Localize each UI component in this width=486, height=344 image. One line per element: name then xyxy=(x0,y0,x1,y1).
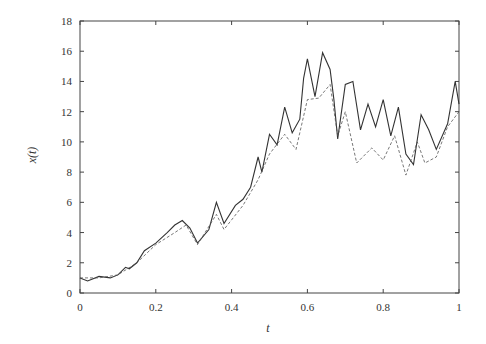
y-tick-label: 12 xyxy=(61,106,72,118)
x-tick-label: 0.4 xyxy=(225,301,239,313)
plot-frame xyxy=(80,21,459,293)
y-axis-ticks: 024681012141618 xyxy=(61,15,459,299)
series-solid-line xyxy=(80,53,459,281)
x-tick-label: 0 xyxy=(77,301,83,313)
x-axis-ticks: 00.20.40.60.81 xyxy=(77,21,462,313)
line-chart: 00.20.40.60.81 024681012141618 t x(t) xyxy=(0,0,486,344)
y-tick-label: 0 xyxy=(67,287,73,299)
series-group xyxy=(80,53,459,281)
y-tick-label: 10 xyxy=(61,136,73,148)
y-tick-label: 2 xyxy=(67,257,73,269)
x-axis-label: t xyxy=(266,321,270,335)
y-axis-label: x(t) xyxy=(25,147,39,165)
y-tick-label: 18 xyxy=(61,15,73,27)
x-tick-label: 0.6 xyxy=(301,301,315,313)
x-tick-label: 0.2 xyxy=(149,301,163,313)
y-tick-label: 4 xyxy=(67,227,73,239)
y-tick-label: 16 xyxy=(61,45,73,57)
x-tick-label: 1 xyxy=(456,301,462,313)
y-tick-label: 6 xyxy=(67,196,73,208)
y-tick-label: 14 xyxy=(61,75,73,87)
y-tick-label: 8 xyxy=(67,166,73,178)
series-dashed-line xyxy=(80,85,459,278)
x-tick-label: 0.8 xyxy=(376,301,390,313)
